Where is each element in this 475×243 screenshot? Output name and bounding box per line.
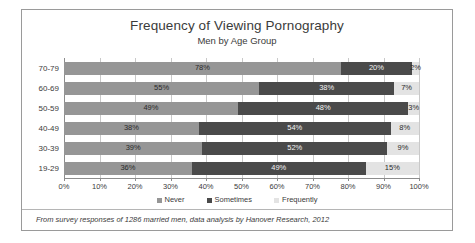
bar-value-label: 49%	[143, 104, 158, 112]
chart-legend: NeverSometimesFrequently	[22, 196, 452, 204]
bar-segment[interactable]: 38%	[259, 82, 394, 95]
category-label: 70-79	[19, 62, 59, 75]
bar-value-label: 9%	[398, 144, 409, 152]
bar-value-label: 20%	[369, 64, 384, 72]
bar-segment[interactable]: 78%	[64, 62, 341, 75]
legend-item[interactable]: Frequently	[274, 196, 317, 204]
bar-value-label: 54%	[287, 124, 302, 132]
chart-container: Frequency of Viewing Pornography Men by …	[21, 9, 453, 231]
bar-segment[interactable]: 7%	[394, 82, 419, 95]
bar-row[interactable]: 19-2936%49%15%	[64, 162, 419, 175]
x-axis-tick	[64, 178, 65, 181]
x-axis-tick	[135, 178, 136, 181]
bar-segment[interactable]: 8%	[391, 122, 419, 135]
bar-row[interactable]: 60-6955%38%7%	[64, 82, 419, 95]
legend-swatch-icon	[207, 198, 212, 203]
x-axis-tick	[242, 178, 243, 181]
x-axis-tick-label: 50%	[234, 182, 249, 191]
bar-segment[interactable]: 49%	[64, 102, 238, 115]
x-axis-tick-label: 80%	[340, 182, 355, 191]
footnote-divider	[22, 209, 452, 210]
legend-swatch-icon	[274, 198, 279, 203]
bar-segment[interactable]: 48%	[238, 102, 408, 115]
bar-value-label: 38%	[319, 84, 334, 92]
x-axis-tick	[419, 178, 420, 181]
bar-value-label: 52%	[287, 144, 302, 152]
bar-value-label: 8%	[399, 124, 410, 132]
x-axis-tick	[171, 178, 172, 181]
bar-segment[interactable]: 20%	[341, 62, 412, 75]
bar-segment[interactable]: 38%	[64, 122, 199, 135]
footnote-text: From survey responses of 1286 married me…	[36, 215, 329, 225]
bar-segment[interactable]: 15%	[366, 162, 419, 175]
category-label: 30-39	[19, 142, 59, 155]
x-axis-tick-label: 100%	[409, 182, 428, 191]
chart-subtitle: Men by Age Group	[22, 35, 452, 47]
chart-title: Frequency of Viewing Pornography	[22, 18, 452, 34]
bar-value-label: 3%	[408, 104, 419, 112]
bar-segment[interactable]: 36%	[64, 162, 192, 175]
x-axis-tick-label: 90%	[376, 182, 391, 191]
x-axis-tick	[277, 178, 278, 181]
x-axis-tick-label: 10%	[92, 182, 107, 191]
x-axis-tick-label: 70%	[305, 182, 320, 191]
bar-value-label: 36%	[120, 164, 135, 172]
bar-value-label: 48%	[316, 104, 331, 112]
title-block: Frequency of Viewing Pornography Men by …	[22, 18, 452, 47]
bar-rows: 70-7978%20%2%60-6955%38%7%50-5949%48%3%4…	[64, 58, 419, 178]
x-axis-tick-label: 20%	[127, 182, 142, 191]
category-label: 60-69	[19, 82, 59, 95]
x-axis-tick-label: 40%	[198, 182, 213, 191]
bar-value-label: 15%	[385, 164, 400, 172]
category-label: 19-29	[19, 162, 59, 175]
bar-value-label: 7%	[401, 84, 412, 92]
bar-segment[interactable]: 3%	[408, 102, 419, 115]
legend-label: Never	[165, 196, 185, 204]
legend-label: Frequently	[282, 196, 317, 204]
bar-segment[interactable]: 49%	[192, 162, 366, 175]
gridline	[419, 58, 420, 178]
bar-value-label: 38%	[124, 124, 139, 132]
bar-value-label: 2%	[410, 64, 421, 72]
legend-label: Sometimes	[215, 196, 253, 204]
bar-value-label: 78%	[195, 64, 210, 72]
bar-segment[interactable]: 52%	[202, 142, 387, 155]
x-axis-tick	[313, 178, 314, 181]
bar-row[interactable]: 40-4938%54%8%	[64, 122, 419, 135]
x-axis-tick	[206, 178, 207, 181]
x-axis-tick-label: 60%	[269, 182, 284, 191]
bar-segment[interactable]: 55%	[64, 82, 259, 95]
bar-row[interactable]: 70-7978%20%2%	[64, 62, 419, 75]
legend-item[interactable]: Sometimes	[207, 196, 253, 204]
legend-swatch-icon	[157, 198, 162, 203]
x-axis-tick	[348, 178, 349, 181]
bar-value-label: 49%	[271, 164, 286, 172]
bar-segment[interactable]: 54%	[199, 122, 391, 135]
category-label: 40-49	[19, 122, 59, 135]
x-axis: 0%10%20%30%40%50%60%70%80%90%100%	[64, 178, 419, 192]
legend-item[interactable]: Never	[157, 196, 185, 204]
x-axis-tick	[100, 178, 101, 181]
bar-segment[interactable]: 9%	[387, 142, 419, 155]
x-axis-tick-label: 0%	[59, 182, 70, 191]
plot-area: 70-7978%20%2%60-6955%38%7%50-5949%48%3%4…	[64, 58, 419, 178]
bar-segment[interactable]: 2%	[412, 62, 419, 75]
bar-segment[interactable]: 39%	[64, 142, 202, 155]
bar-row[interactable]: 50-5949%48%3%	[64, 102, 419, 115]
bar-value-label: 39%	[126, 144, 141, 152]
x-axis-tick-label: 30%	[163, 182, 178, 191]
bar-value-label: 55%	[154, 84, 169, 92]
x-axis-tick	[384, 178, 385, 181]
category-label: 50-59	[19, 102, 59, 115]
bar-row[interactable]: 30-3939%52%9%	[64, 142, 419, 155]
